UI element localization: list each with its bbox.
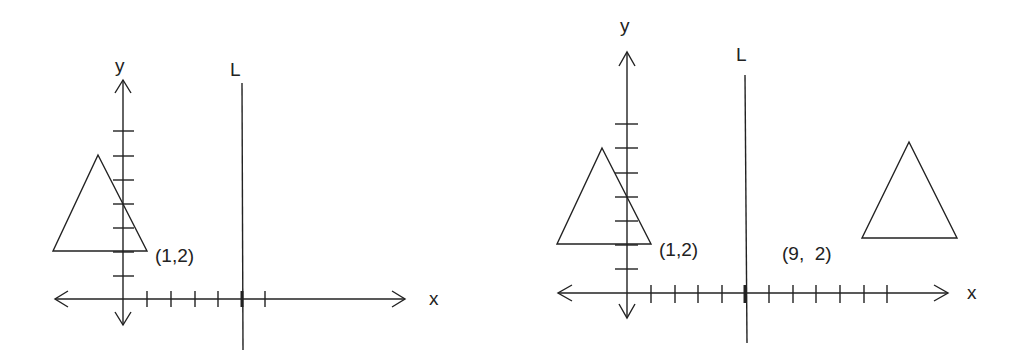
y-axis-label: y bbox=[115, 56, 125, 75]
image-point-label: (9, 2) bbox=[782, 244, 832, 263]
x-ticks bbox=[651, 285, 887, 303]
left-figure bbox=[53, 80, 405, 350]
x-axis-label: x bbox=[967, 283, 977, 302]
line-l bbox=[242, 83, 243, 350]
triangle-original bbox=[53, 155, 147, 251]
triangle-image bbox=[862, 142, 957, 238]
point-label: (1,2) bbox=[155, 246, 194, 265]
right-figure bbox=[557, 52, 957, 343]
x-axis-label: x bbox=[429, 289, 439, 308]
line-l-label: L bbox=[230, 60, 241, 79]
triangle-original bbox=[557, 148, 651, 244]
y-axis-label: y bbox=[620, 16, 630, 35]
point-label: (1,2) bbox=[659, 240, 698, 259]
diagram-canvas bbox=[0, 0, 1020, 363]
line-l-label: L bbox=[736, 45, 747, 64]
